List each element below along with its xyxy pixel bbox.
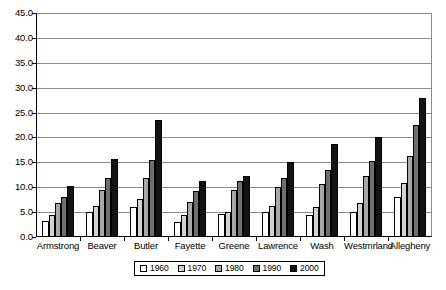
x-tick-mark (212, 237, 213, 241)
y-tick-label: 25.0 (3, 108, 33, 118)
y-tick-mark (32, 63, 36, 64)
y-tick-label: 35.0 (3, 58, 33, 68)
legend-label: 1960 (150, 264, 169, 273)
chart-legend: 19601970198019902000 (134, 261, 325, 276)
x-tick-label: Fayette (168, 240, 212, 252)
bar (199, 181, 205, 237)
legend-label: 1970 (188, 264, 207, 273)
bar-group (394, 13, 426, 237)
y-tick-mark (32, 38, 36, 39)
y-tick-mark (32, 212, 36, 213)
x-tick-mark (388, 237, 389, 241)
y-tick-mark (32, 162, 36, 163)
y-tick-label: 45.0 (3, 8, 33, 18)
x-tick-label: Wash (300, 240, 344, 252)
legend-swatch-icon (253, 265, 260, 272)
legend-item: 1980 (215, 264, 244, 273)
x-tick-mark (344, 237, 345, 241)
legend-item: 2000 (290, 264, 319, 273)
y-tick-label: 40.0 (3, 33, 33, 43)
x-tick-label: Westmrland (344, 240, 388, 252)
x-tick-label: Allegheny (388, 240, 432, 252)
y-tick-label: 5.0 (3, 207, 33, 217)
x-tick-mark (168, 237, 169, 241)
y-tick-label: 15.0 (3, 157, 33, 167)
x-tick-mark (80, 237, 81, 241)
y-tick-mark (32, 237, 36, 238)
bar (331, 144, 337, 237)
bar (287, 162, 293, 237)
bar-group (174, 13, 206, 237)
y-tick-mark (32, 88, 36, 89)
x-tick-label: Lawrence (256, 240, 300, 252)
legend-label: 2000 (300, 264, 319, 273)
y-tick-mark (32, 137, 36, 138)
bar (375, 137, 381, 237)
x-tick-label: Butler (124, 240, 168, 252)
bar-group (130, 13, 162, 237)
legend-item: 1960 (140, 264, 169, 273)
x-tick-mark (124, 237, 125, 241)
bar-group (218, 13, 250, 237)
x-tick-mark (256, 237, 257, 241)
bar-group (306, 13, 338, 237)
legend-label: 1980 (225, 264, 244, 273)
legend-swatch-icon (215, 265, 222, 272)
legend-label: 1990 (263, 264, 282, 273)
y-tick-label: 30.0 (3, 83, 33, 93)
bar (419, 98, 425, 237)
x-tick-label: Beaver (80, 240, 124, 252)
bars-layer (36, 13, 432, 237)
bar-group (86, 13, 118, 237)
x-tick-label: Greene (212, 240, 256, 252)
legend-item: 1990 (253, 264, 282, 273)
y-tick-mark (32, 13, 36, 14)
bar (67, 186, 73, 237)
y-tick-label: 10.0 (3, 182, 33, 192)
legend-swatch-icon (290, 265, 297, 272)
x-axis-tick-labels: ArmstrongBeaverButlerFayetteGreeneLawren… (0, 240, 446, 256)
y-tick-mark (32, 187, 36, 188)
x-tick-label: Armstrong (36, 240, 80, 252)
bar-group (350, 13, 382, 237)
bar (111, 159, 117, 237)
x-tick-mark (300, 237, 301, 241)
bar (243, 176, 249, 237)
bar-chart: 0.05.010.015.020.025.030.035.040.045.0 A… (0, 0, 446, 290)
bar-group (42, 13, 74, 237)
bar-group (262, 13, 294, 237)
legend-item: 1970 (178, 264, 207, 273)
bar (155, 120, 161, 237)
y-tick-mark (32, 113, 36, 114)
legend-swatch-icon (140, 265, 147, 272)
legend-swatch-icon (178, 265, 185, 272)
y-tick-label: 20.0 (3, 132, 33, 142)
